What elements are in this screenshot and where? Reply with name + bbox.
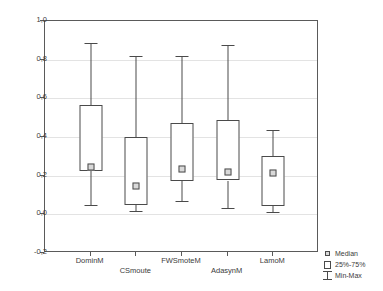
cap-max: [176, 56, 189, 57]
y-axis-label: 0,2: [17, 171, 47, 179]
iqr-box: [79, 105, 102, 171]
x-axis-label-dominm: DominM: [76, 256, 104, 265]
whisker-lower: [136, 205, 137, 212]
median-marker: [224, 168, 231, 175]
cap-max: [221, 45, 234, 46]
cap-max: [130, 56, 143, 57]
cap-min: [84, 205, 97, 206]
legend-label-minmax: Min-Max: [335, 272, 362, 279]
whisker-marker-icon: [322, 270, 333, 281]
cap-min: [267, 212, 280, 213]
whisker-upper: [273, 130, 274, 156]
cap-max: [84, 43, 97, 44]
cap-max: [267, 130, 280, 131]
plot-area: [44, 20, 318, 252]
whisker-upper: [90, 43, 91, 105]
whisker-lower: [90, 171, 91, 205]
gridline: [45, 214, 317, 215]
y-axis-label: 0,0: [17, 209, 47, 217]
legend-item-median: Median: [322, 248, 382, 259]
y-axis-label: -0,2: [17, 248, 47, 256]
cap-min: [176, 201, 189, 202]
x-axis-label-lamom: LamoM: [260, 256, 285, 265]
box-plot-figure: 1,00,80,60,40,20,0-0,2 DominMCSmouteFWSm…: [0, 0, 383, 291]
median-marker-icon: [322, 248, 333, 259]
cap-min: [130, 211, 143, 212]
y-axis-label: 0,4: [17, 132, 47, 140]
whisker-upper: [227, 45, 228, 119]
whisker-upper: [182, 56, 183, 124]
whisker-lower: [182, 181, 183, 200]
whisker-lower: [227, 181, 228, 208]
y-axis-label: 0,8: [17, 55, 47, 63]
x-axis-label-adasynm: AdasynM: [211, 266, 242, 275]
iqr-box: [262, 156, 285, 205]
legend-label-median: Median: [335, 250, 358, 257]
whisker-upper: [136, 56, 137, 137]
median-marker: [87, 163, 94, 170]
x-axis-label-csmoute: CSmoute: [120, 266, 151, 275]
iqr-box: [125, 137, 148, 205]
cap-min: [221, 208, 234, 209]
median-marker: [270, 169, 277, 176]
legend-item-iqr: 25%-75%: [322, 259, 382, 270]
box-marker-icon: [322, 259, 333, 270]
legend-label-iqr: 25%-75%: [335, 261, 365, 268]
legend-item-minmax: Min-Max: [322, 270, 382, 281]
whisker-lower: [273, 206, 274, 213]
chart-legend: Median 25%-75% Min-Max: [322, 248, 382, 281]
x-axis-tick: [227, 252, 228, 256]
x-axis-label-fwsmotem: FWSmoteM: [161, 256, 201, 265]
median-marker: [179, 165, 186, 172]
y-axis-label: 1,0: [17, 16, 47, 24]
x-axis-tick: [135, 252, 136, 256]
median-marker: [133, 183, 140, 190]
y-axis-label: 0,6: [17, 93, 47, 101]
iqr-box: [171, 123, 194, 181]
